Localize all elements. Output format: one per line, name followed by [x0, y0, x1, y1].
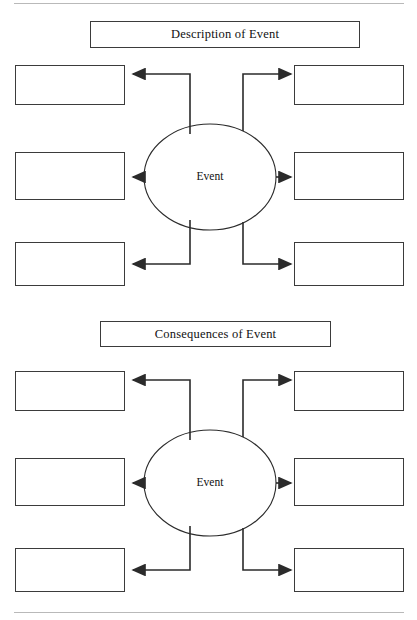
event-ellipse-label: Event	[145, 476, 275, 488]
left-box-3[interactable]	[15, 242, 125, 286]
right-box-2[interactable]	[294, 152, 404, 200]
right-box-2[interactable]	[294, 458, 404, 506]
diagram-description-of-event: Description of Event	[0, 0, 417, 300]
event-ellipse-label: Event	[145, 170, 275, 182]
left-box-2[interactable]	[15, 458, 125, 506]
diagram-consequences-of-event: Consequences of Event Event	[0, 306, 417, 606]
connector-left-top	[133, 380, 190, 440]
connector-left-top	[133, 74, 190, 134]
worksheet-page: Description of Event	[0, 0, 417, 620]
left-box-3[interactable]	[15, 548, 125, 592]
right-box-3[interactable]	[294, 242, 404, 286]
right-box-3[interactable]	[294, 548, 404, 592]
right-box-1[interactable]	[294, 65, 404, 105]
connector-right-bottom	[243, 528, 291, 570]
connector-left-bottom	[133, 526, 190, 570]
connector-left-bottom	[133, 220, 190, 264]
right-box-1[interactable]	[294, 371, 404, 411]
connector-right-top	[243, 74, 291, 131]
connector-right-top	[243, 380, 291, 437]
left-box-1[interactable]	[15, 65, 125, 105]
connector-right-bottom	[243, 222, 291, 264]
left-box-1[interactable]	[15, 371, 125, 411]
bottom-divider	[14, 612, 404, 613]
left-box-2[interactable]	[15, 152, 125, 200]
